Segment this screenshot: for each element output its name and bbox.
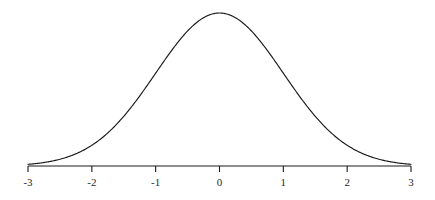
plot-area (0, 0, 435, 200)
x-tick-label-2: 2 (344, 177, 350, 188)
normal-distribution-chart: -3-2-10123 (0, 0, 435, 200)
bell-curve-line (28, 13, 411, 164)
x-tick-label-1: 1 (281, 177, 287, 188)
x-tick-label-neg2: -2 (87, 177, 96, 188)
x-tick-label-0: 0 (217, 177, 223, 188)
x-axis-tick-marks (28, 166, 411, 172)
x-tick-label-neg1: -1 (151, 177, 160, 188)
x-tick-label-neg3: -3 (23, 177, 32, 188)
x-tick-label-3: 3 (408, 177, 414, 188)
